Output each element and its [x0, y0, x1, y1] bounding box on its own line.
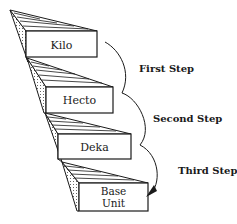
- transition-label-second: Second Step: [153, 113, 222, 124]
- step-label-unit: Unit: [102, 197, 126, 209]
- step-kilo: Kilo: [10, 10, 97, 62]
- step-deka: Deka: [45, 113, 131, 162]
- transition-label-third: Third Step: [178, 165, 237, 176]
- step-base-unit: Base Unit: [62, 162, 148, 211]
- transition-label-first: First Step: [139, 63, 194, 74]
- step-label-base: Base: [101, 185, 127, 197]
- step-label-hecto: Hecto: [63, 94, 97, 107]
- step-label-deka: Deka: [80, 141, 109, 154]
- step-hecto: Hecto: [27, 58, 113, 113]
- step-label-kilo: Kilo: [51, 39, 73, 52]
- metric-staircase-diagram: Kilo Hecto Deka: [0, 0, 237, 224]
